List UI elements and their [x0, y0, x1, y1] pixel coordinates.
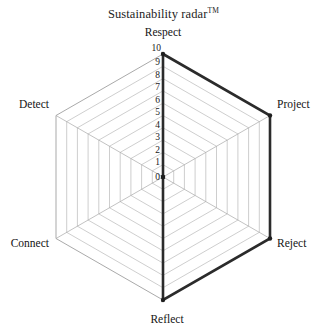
tick-label-7: 7 — [155, 82, 160, 92]
axis-label-respect: Respect — [145, 26, 182, 39]
radar-chart-container: Sustainability radarTM — [0, 0, 327, 333]
data-point-detect — [161, 175, 165, 179]
tick-label-4: 4 — [155, 120, 160, 130]
axis-label-detect: Detect — [19, 98, 50, 110]
tick-label-8: 8 — [155, 70, 160, 80]
data-point-reflect — [161, 298, 165, 302]
tick-label-0: 0 — [155, 172, 160, 182]
tick-label-1: 1 — [155, 157, 160, 167]
data-point-reject — [268, 236, 272, 240]
tick-label-9: 9 — [155, 57, 160, 67]
axis-label-reflect: Reflect — [150, 313, 184, 325]
axis-label-project: Project — [277, 98, 310, 111]
tick-label-5: 5 — [155, 107, 160, 117]
axis-label-connect: Connect — [11, 237, 50, 249]
radial-tick-labels: 10 9 8 7 6 5 4 3 2 1 0 — [152, 43, 162, 182]
tick-label-10: 10 — [152, 43, 162, 53]
radar-plot: 10 9 8 7 6 5 4 3 2 1 0 Respect Project R… — [0, 0, 327, 333]
tick-label-2: 2 — [155, 145, 160, 155]
axis-label-reject: Reject — [277, 237, 307, 250]
tick-label-3: 3 — [155, 132, 160, 142]
data-point-respect — [161, 52, 165, 56]
data-point-project — [268, 113, 272, 117]
tick-label-6: 6 — [155, 95, 160, 105]
